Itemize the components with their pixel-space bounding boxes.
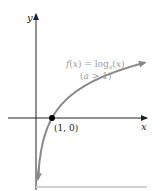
function-label: f(x) = loga(x) <box>65 59 124 70</box>
point-1-0 <box>49 115 55 121</box>
condition-label: (a > 1) <box>80 71 111 81</box>
log-graph: y x f(x) = loga(x) (a > 1) (1, 0) <box>0 0 160 191</box>
curve-arrow-start <box>38 167 39 179</box>
y-axis-label: y <box>26 12 33 23</box>
point-label: (1, 0) <box>54 123 78 133</box>
x-axis-label: x <box>141 121 147 132</box>
